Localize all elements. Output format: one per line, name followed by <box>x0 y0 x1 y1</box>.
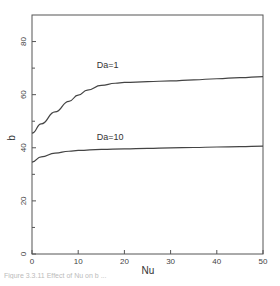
line-chart: 020406080 01020304050 Da=1Da=10 Nu b <box>0 0 280 286</box>
y-tick-label: 20 <box>19 196 28 205</box>
plot-frame <box>32 15 263 254</box>
y-axis-title: b <box>6 135 17 141</box>
y-axis-ticks: 020406080 <box>19 37 36 257</box>
y-tick-label: 80 <box>19 37 28 46</box>
x-tick-label: 50 <box>259 257 268 266</box>
series-label: Da=10 <box>97 132 124 142</box>
series-line-da-10 <box>32 146 263 162</box>
x-tick-label: 30 <box>166 257 175 266</box>
series-line-da-1 <box>32 77 263 134</box>
figure-caption: Figure 3.3.11 Effect of Nu on b ... <box>4 272 280 279</box>
data-series <box>32 77 263 163</box>
x-axis-ticks: 01020304050 <box>30 250 268 266</box>
x-tick-label: 40 <box>212 257 221 266</box>
y-tick-label: 0 <box>19 251 28 256</box>
x-tick-label: 20 <box>120 257 129 266</box>
series-label: Da=1 <box>97 60 119 70</box>
y-tick-label: 60 <box>19 90 28 99</box>
plot-border <box>32 15 263 254</box>
y-tick-label: 40 <box>19 143 28 152</box>
x-tick-label: 10 <box>74 257 83 266</box>
series-labels: Da=1Da=10 <box>97 60 124 142</box>
x-tick-label: 0 <box>30 257 35 266</box>
